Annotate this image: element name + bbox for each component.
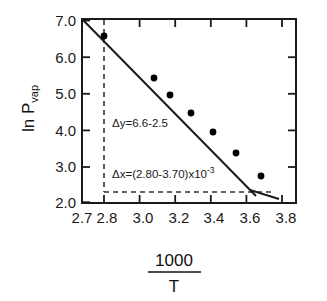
y-axis-title-main: ln P: [19, 103, 38, 132]
data-point: [101, 33, 108, 40]
data-point: [151, 75, 158, 82]
data-point: [258, 173, 265, 180]
y-tick-label: 5.0: [55, 85, 76, 102]
x-tick-label: 3.0: [133, 209, 154, 226]
data-point: [210, 129, 217, 136]
x-tick-label: 3.6: [240, 209, 261, 226]
svg-text:ln Pvap: ln Pvap: [19, 85, 40, 132]
delta-y-annotation: Δy=6.6-2.5: [112, 117, 168, 129]
y-tick-label: 4.0: [55, 122, 76, 139]
vapor-pressure-plot-figure: 7.0 6.0 5.0 4.0 3.0 2.0 2.7 2.8 3.0 3.2 …: [0, 0, 327, 301]
data-point: [167, 92, 174, 99]
x-tick-label: 3.4: [204, 209, 225, 226]
y-tick-label: 3.0: [55, 158, 76, 175]
y-tick-labels: 7.0 6.0 5.0 4.0 3.0 2.0: [55, 12, 76, 211]
x-tick-label: 2.8: [97, 209, 118, 226]
x-tick-labels: 2.7 2.8 3.0 3.2 3.4 3.6 3.8: [72, 209, 297, 226]
y-axis-title: ln Pvap: [19, 85, 40, 132]
y-tick-label: 6.0: [55, 49, 76, 66]
data-point: [188, 110, 195, 117]
y-tick-label: 7.0: [55, 12, 76, 29]
y-axis-title-subscript: vap: [28, 85, 40, 103]
x-axis-title-denominator: T: [169, 277, 179, 296]
delta-x-annotation: Δx=(2.80-3.70)x10-3: [112, 165, 215, 180]
delta-x-annotation-exponent: -3: [207, 165, 215, 175]
x-tick-label: 3.8: [276, 209, 297, 226]
delta-x-annotation-text: Δx=(2.80-3.70)x10: [112, 168, 207, 180]
x-axis-title: 1000 T: [148, 251, 201, 296]
chart-svg: 7.0 6.0 5.0 4.0 3.0 2.0 2.7 2.8 3.0 3.2 …: [0, 0, 327, 301]
data-point: [233, 150, 240, 157]
x-origin-label: 2.7: [72, 209, 93, 226]
x-axis-title-numerator: 1000: [155, 251, 193, 270]
x-tick-label: 3.2: [169, 209, 190, 226]
svg-text:Δx=(2.80-3.70)x10-3: Δx=(2.80-3.70)x10-3: [112, 165, 215, 180]
